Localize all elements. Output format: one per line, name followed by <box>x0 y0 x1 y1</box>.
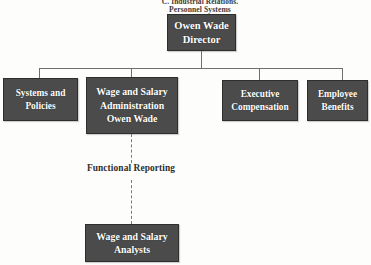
node-benefits-text: EmployeeBenefits <box>308 88 367 113</box>
connector-dashed-upper <box>131 134 132 163</box>
node-wage-text: Wage and SalaryAdministrationOwen Wade <box>87 85 177 126</box>
node-wage-and-salary-analysts[interactable]: Wage and SalaryAnalysts <box>85 224 179 262</box>
connector-root-stem <box>201 51 202 69</box>
node-systems-text: Systems andPolicies <box>4 87 77 112</box>
node-systems-and-policies[interactable]: Systems andPolicies <box>3 78 78 121</box>
node-analysts-text: Wage and SalaryAnalysts <box>86 230 178 256</box>
node-employee-benefits[interactable]: EmployeeBenefits <box>307 80 368 121</box>
functional-reporting-label: Functional Reporting <box>61 163 201 173</box>
node-wage-and-salary-administration[interactable]: Wage and SalaryAdministrationOwen Wade <box>86 77 178 134</box>
chart-caption-line-2: Personnel Systems <box>140 5 260 14</box>
connector-horizontal-bus <box>39 68 343 69</box>
org-chart: C. Industrial Relations. Personnel Syste… <box>0 0 371 265</box>
node-root-text: Owen WadeDirector <box>168 19 235 47</box>
node-executive-compensation[interactable]: ExecutiveCompensation <box>222 80 298 121</box>
node-owen-wade-director[interactable]: Owen WadeDirector <box>167 14 236 51</box>
node-executive-text: ExecutiveCompensation <box>223 88 297 113</box>
connector-dashed-lower <box>131 180 132 224</box>
